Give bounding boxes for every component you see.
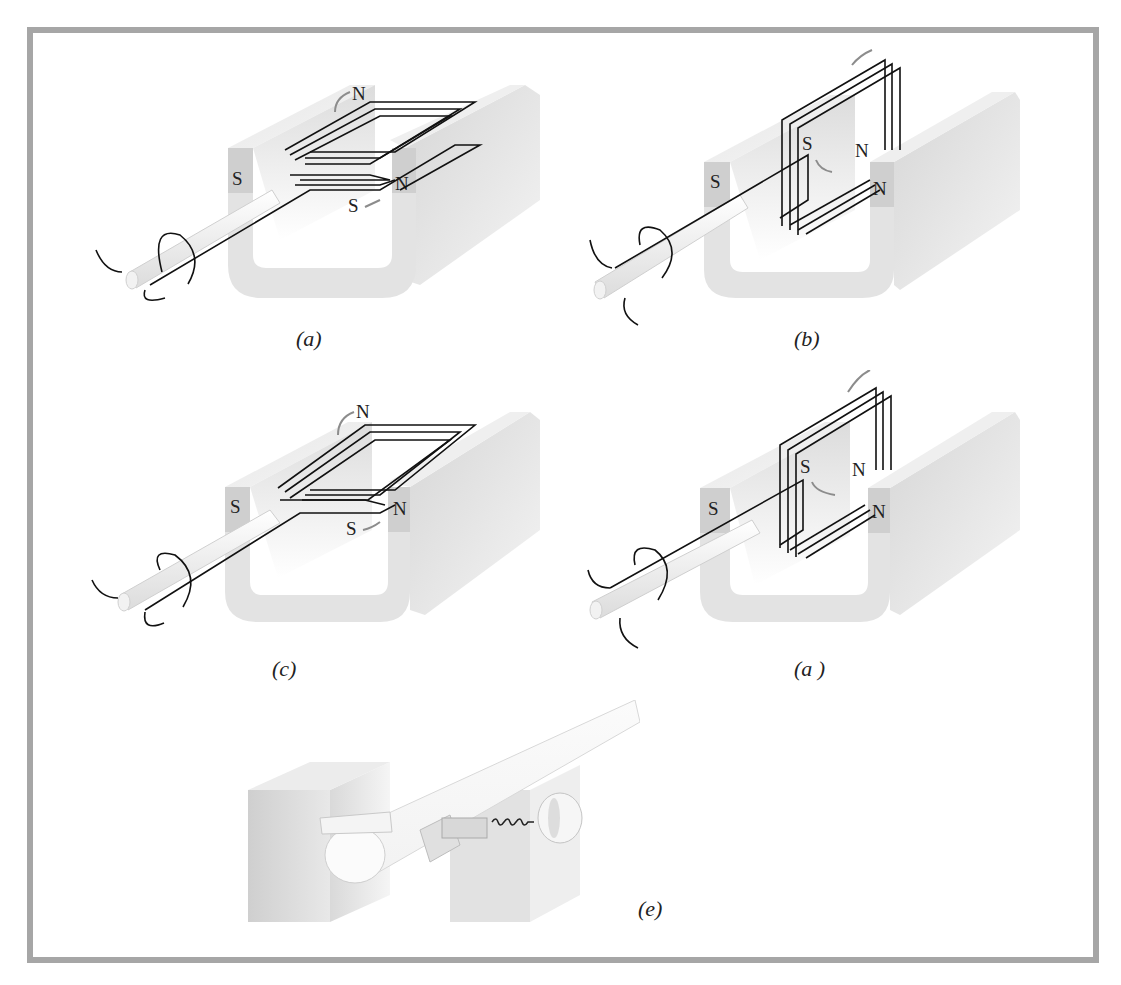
panel-b-diagram: S N S N bbox=[580, 20, 1050, 340]
magnet-pole-right-label: N bbox=[873, 178, 887, 199]
magnet-pole-right-label: N bbox=[393, 498, 407, 519]
panel-e-diagram bbox=[240, 700, 640, 930]
panel-c-caption: (c) bbox=[272, 656, 296, 682]
panel-c-diagram: S N N S bbox=[80, 370, 550, 670]
brush bbox=[442, 818, 487, 838]
arrow-gray-icon bbox=[365, 200, 380, 207]
magnet-pole-right-label: N bbox=[872, 501, 886, 522]
coil-pole-bottom-label: S bbox=[346, 518, 357, 539]
coil-pole-right-label: N bbox=[855, 140, 869, 161]
panel-a-caption: (a) bbox=[296, 326, 322, 352]
coil-pole-top-label: N bbox=[352, 83, 366, 104]
arrow-gray-icon bbox=[852, 50, 872, 65]
panel-d-diagram: S N S N bbox=[580, 370, 1050, 670]
magnet-body bbox=[704, 92, 1020, 298]
arrow-gray-icon bbox=[848, 370, 870, 392]
magnet-body bbox=[228, 85, 540, 298]
coil-pole-bottom-label: S bbox=[348, 195, 359, 216]
coil-pole-top-label: N bbox=[356, 401, 370, 422]
panel-d-caption: (a ) bbox=[794, 656, 825, 682]
coil-pole-right-label: N bbox=[852, 459, 866, 480]
magnet-pole-left-label: S bbox=[232, 168, 243, 189]
coil-pole-left-label: S bbox=[802, 133, 813, 154]
panel-b-caption: (b) bbox=[794, 326, 820, 352]
magnet-pole-left-label: S bbox=[708, 498, 719, 519]
panel-a-diagram: S N N S bbox=[80, 40, 550, 340]
magnet-pole-left-label: S bbox=[230, 496, 241, 517]
magnet-pole-left-label: S bbox=[710, 171, 721, 192]
panel-e-caption: (e) bbox=[638, 896, 662, 922]
coil-pole-left-label: S bbox=[800, 456, 811, 477]
